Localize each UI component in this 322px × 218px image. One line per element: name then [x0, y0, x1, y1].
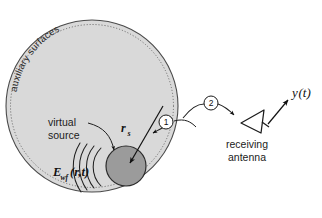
marker-one-label: 1: [164, 117, 169, 127]
figure-root: auxiliary surfaces 1: [0, 0, 322, 218]
marker-one: 1: [159, 115, 173, 129]
receiving-antenna-label-line2: antenna: [228, 151, 266, 163]
output-signal-symbol: y: [290, 85, 298, 100]
marker-one-tail: [174, 120, 196, 127]
diagram-canvas: auxiliary surfaces 1: [0, 0, 322, 218]
output-signal-arrow: [268, 100, 288, 124]
output-signal-args: (t): [299, 85, 311, 100]
antenna-horn: [241, 110, 264, 133]
antenna-stub: [262, 122, 269, 127]
position-vector-symbol: r: [121, 121, 126, 135]
receiving-antenna-label-line1: receiving: [226, 138, 268, 150]
virtual-source-label-line2: source: [48, 129, 80, 141]
virtual-source-label-line1: virtual: [48, 116, 76, 128]
marker-two-arrow: [218, 104, 234, 115]
marker-two-label: 2: [209, 98, 214, 108]
output-signal-label: y (t): [290, 85, 311, 100]
marker-two: 2: [204, 96, 218, 110]
position-vector-subscript: s: [127, 129, 131, 138]
marker-two-tail: [183, 104, 204, 118]
receiving-antenna: [241, 110, 269, 133]
wavefield-label-args: (r,t): [70, 165, 89, 179]
virtual-source-sphere: [106, 146, 146, 186]
